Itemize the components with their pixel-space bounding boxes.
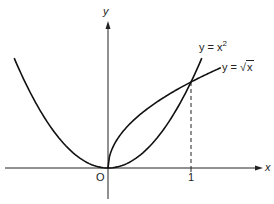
sqrt-curve xyxy=(108,68,221,168)
x-axis-arrow-icon xyxy=(255,166,263,171)
sqrt-label: y = √x xyxy=(222,62,254,73)
origin-label: O xyxy=(96,172,105,183)
parabola-label-text: y = x xyxy=(199,41,223,53)
y-axis-label: y xyxy=(103,6,109,17)
sqrt-label-radicand: x xyxy=(246,60,254,73)
x-tick-label-1: 1 xyxy=(188,172,194,183)
x-axis-label: x xyxy=(265,162,271,173)
y-axis-arrow-icon xyxy=(106,21,111,29)
parabola-label: y = x2 xyxy=(199,40,227,53)
parabola-label-exponent: 2 xyxy=(223,39,227,48)
sqrt-label-prefix: y = xyxy=(222,61,240,73)
plot-canvas xyxy=(0,0,274,204)
